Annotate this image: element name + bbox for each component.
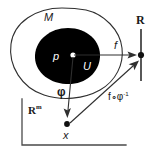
function-f-label: f [114,40,117,51]
open-set-u-shape [35,28,100,84]
arrow-phi-head [64,108,71,118]
chart-phi-label: φ [57,86,66,98]
open-set-label: U [83,61,91,72]
point-p-label: p [53,51,59,62]
composition-exponent: -1 [123,90,129,97]
euclidean-space-exponent: m [36,103,42,110]
real-line-label: R [136,14,145,26]
point-x-label: x [63,130,69,141]
manifold-label: M [44,12,53,23]
euclidean-space-base: R [28,104,36,116]
point-x-marker [64,121,70,127]
image-point-on-r [138,52,144,58]
manifold-chart-diagram: M R f p U φ Rm x f∘φ-1 [0,0,159,157]
euclidean-space-label: Rm [28,105,42,116]
composition-label: f∘φ-1 [108,92,129,102]
composition-base: f∘φ [108,91,123,102]
